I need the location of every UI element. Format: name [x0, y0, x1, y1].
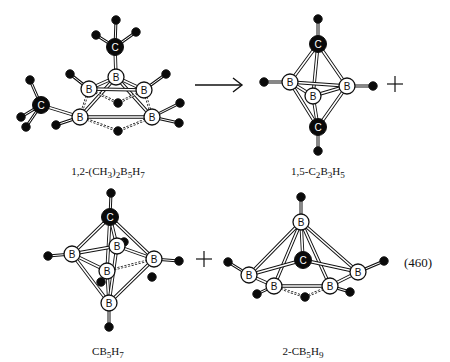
atom-h	[346, 288, 354, 296]
atom-h	[132, 28, 140, 36]
atom-symbol: C	[299, 255, 306, 266]
atom-h	[66, 70, 74, 78]
atom-symbol: B	[327, 281, 334, 292]
atom-h	[107, 189, 115, 197]
atom-h	[162, 70, 170, 78]
atom-symbol: B	[344, 81, 351, 92]
reaction-arrow	[195, 78, 242, 92]
atom-h	[380, 257, 388, 265]
atom-h	[175, 257, 183, 265]
atom-h	[44, 252, 52, 260]
atom-h	[301, 293, 309, 301]
atom-h	[97, 278, 105, 286]
molecule-closo-dicarbapentaborane: CBBBC	[260, 15, 377, 155]
atom-h	[17, 113, 25, 121]
atom-symbol: C	[314, 39, 321, 50]
equation-number: (460)	[404, 255, 432, 271]
atom-h	[314, 147, 322, 155]
atom-h	[253, 290, 261, 298]
atom-symbol: B	[86, 84, 93, 95]
atom-symbol: B	[271, 281, 278, 292]
formula-label: 1,5-C2B3H5	[291, 165, 345, 180]
formula-label: CB5H7	[92, 345, 124, 360]
formula-label: 1,2-(CH3)2B5H7	[71, 165, 145, 180]
atom-symbol: B	[287, 77, 294, 88]
plus-sign	[387, 76, 403, 92]
atom-symbol: B	[298, 217, 305, 228]
atom-symbol: B	[69, 249, 76, 260]
atom-symbol: B	[113, 72, 120, 83]
molecule-carbahexaborane-nido: BCBBBB	[224, 193, 388, 301]
atom-h	[260, 78, 268, 86]
atom-symbol: B	[151, 254, 158, 265]
atom-symbol: C	[111, 42, 118, 53]
atom-h	[176, 99, 184, 107]
formula-label: 2-CB5H9	[283, 345, 324, 360]
atom-symbol: B	[141, 85, 148, 96]
atom-symbol: C	[37, 100, 44, 111]
atom-symbol: B	[246, 270, 253, 281]
atom-h	[114, 127, 122, 135]
atom-symbol: B	[355, 267, 362, 278]
atom-symbol: B	[114, 241, 121, 252]
atom-h	[114, 99, 122, 107]
atom-h	[112, 16, 120, 24]
plus-sign	[196, 251, 212, 267]
atom-h	[92, 31, 100, 39]
atom-symbol: B	[310, 91, 317, 102]
atom-symbol: B	[106, 298, 113, 309]
atom-h	[22, 123, 30, 131]
atom-h	[105, 323, 113, 331]
atom-h	[52, 121, 60, 129]
atom-symbol: B	[77, 112, 84, 123]
atom-symbol: C	[314, 122, 321, 133]
atom-h	[314, 15, 322, 23]
atom-h	[297, 193, 305, 201]
atom-h	[369, 82, 377, 90]
atom-h	[224, 258, 232, 266]
molecule-dimethyl-pentaborane: CBBBBBC	[17, 16, 184, 135]
atom-symbol: C	[106, 212, 113, 223]
atom-symbol: B	[104, 266, 111, 277]
atom-symbol: B	[149, 112, 156, 123]
reaction-diagram: CBBBBBCCBBBCCBBBBBBCBBBB	[0, 0, 450, 362]
molecule-carbahexaborane: CBBBBB	[44, 189, 183, 331]
atom-h	[148, 273, 156, 281]
atom-h	[26, 76, 34, 84]
atom-h	[175, 119, 183, 127]
